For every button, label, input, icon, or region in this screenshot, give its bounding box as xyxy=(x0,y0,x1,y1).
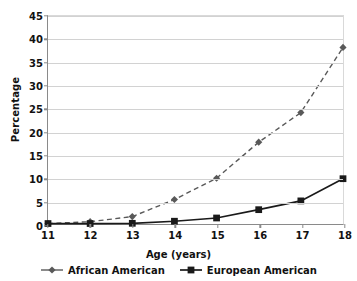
gridline xyxy=(48,39,343,40)
y-axis-tick-mark xyxy=(44,155,48,156)
gridline xyxy=(48,179,343,180)
data-point-marker xyxy=(129,213,136,220)
x-axis-tick-label: 15 xyxy=(211,230,225,241)
y-axis-tick-label: 5 xyxy=(36,197,43,208)
x-axis-tick-label: 18 xyxy=(338,230,352,241)
data-point-marker xyxy=(213,215,220,222)
x-axis-tick-mark xyxy=(259,224,260,228)
x-axis-tick-label: 17 xyxy=(296,230,310,241)
series-layer xyxy=(48,16,343,224)
x-axis-tick-label: 12 xyxy=(83,230,97,241)
y-axis-title: Percentage xyxy=(10,50,21,170)
y-axis-tick-label: 30 xyxy=(29,81,43,92)
gridline xyxy=(48,133,343,134)
data-point-marker xyxy=(339,44,346,51)
y-axis-tick-mark xyxy=(44,202,48,203)
legend-label: European American xyxy=(207,265,317,276)
legend-diamond-marker-icon xyxy=(40,264,64,276)
y-axis-tick-label: 20 xyxy=(29,127,43,138)
gridline xyxy=(48,63,343,64)
legend-item-0[interactable]: African American xyxy=(40,264,165,276)
gridline xyxy=(48,203,343,204)
gridline xyxy=(48,86,343,87)
x-axis-tick-label: 11 xyxy=(41,230,55,241)
legend-square-marker-icon xyxy=(179,264,203,276)
x-axis-tick-mark xyxy=(90,224,91,228)
x-axis-tick-label: 16 xyxy=(253,230,267,241)
legend-item-1[interactable]: European American xyxy=(179,264,317,276)
y-axis-tick-mark xyxy=(44,39,48,40)
y-axis-tick-label: 35 xyxy=(29,57,43,68)
y-axis-tick-mark xyxy=(44,62,48,63)
y-axis-tick-label: 10 xyxy=(29,174,43,185)
x-axis-tick-mark xyxy=(344,224,345,228)
gridline xyxy=(48,109,343,110)
gridline xyxy=(48,156,343,157)
x-axis-tick-mark xyxy=(302,224,303,228)
data-point-marker xyxy=(255,206,262,213)
legend-label: African American xyxy=(68,265,165,276)
y-axis-tick-mark xyxy=(44,15,48,16)
y-axis-tick-label: 40 xyxy=(29,34,43,45)
plot-area: 0510152025303540451112131415161718 xyxy=(47,15,344,225)
y-axis-tick-label: 25 xyxy=(29,104,43,115)
y-axis-tick-label: 45 xyxy=(29,11,43,22)
y-axis-tick-mark xyxy=(44,109,48,110)
line-chart: Percentage 05101520253035404511121314151… xyxy=(0,0,357,281)
series-line-0 xyxy=(48,47,343,223)
x-axis-tick-mark xyxy=(132,224,133,228)
y-axis-tick-mark xyxy=(44,85,48,86)
y-axis-tick-label: 15 xyxy=(29,151,43,162)
x-axis-tick-mark xyxy=(47,224,48,228)
x-axis-tick-label: 13 xyxy=(126,230,140,241)
y-axis-tick-mark xyxy=(44,179,48,180)
x-axis-tick-label: 14 xyxy=(168,230,182,241)
x-axis-title: Age (years) xyxy=(0,249,357,260)
gridline xyxy=(48,16,343,17)
x-axis-tick-mark xyxy=(175,224,176,228)
y-axis-tick-mark xyxy=(44,132,48,133)
x-axis-tick-mark xyxy=(217,224,218,228)
chart-legend: African AmericanEuropean American xyxy=(0,264,357,276)
